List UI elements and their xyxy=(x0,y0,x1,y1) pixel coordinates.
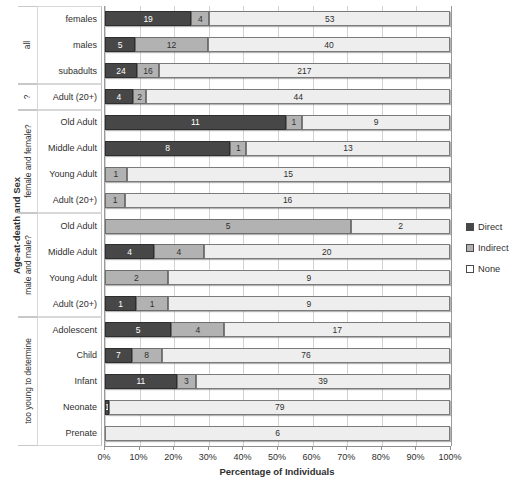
x-axis-tick-label: 50% xyxy=(260,452,294,462)
bar-row: 7876 xyxy=(105,348,450,363)
bar-segment-none: 76 xyxy=(162,348,450,363)
bar-value-label: 4 xyxy=(198,14,203,24)
bar-row: 11339 xyxy=(105,374,450,389)
bar-value-label: 8 xyxy=(144,350,149,360)
group-label-female-and-female-: female and female? xyxy=(18,110,38,214)
x-axis-tick xyxy=(346,446,347,450)
bar-value-label: 1 xyxy=(150,299,155,309)
bar-segment-none: 39 xyxy=(196,374,450,389)
bar-row: 8113 xyxy=(105,141,450,156)
x-axis-tick-label: 70% xyxy=(329,452,363,462)
category-label: Prenate xyxy=(65,429,97,438)
bar-segment-direct: 5 xyxy=(105,37,135,52)
legend: DirectIndirectNone xyxy=(466,222,509,285)
category-block: Adult (20+) xyxy=(38,84,102,110)
bar-row: 179 xyxy=(105,400,450,415)
bar-segment-none: 40 xyxy=(208,37,450,52)
bar-value-label: 5 xyxy=(136,325,141,335)
bar-row: 19453 xyxy=(105,11,450,26)
group-label-text: all xyxy=(22,41,32,49)
bar-segment-direct: 8 xyxy=(105,141,230,156)
category-label: Adolescent xyxy=(52,326,97,335)
category-label: Middle Adult xyxy=(48,248,97,257)
bar-value-label: 9 xyxy=(306,273,311,283)
bar-value-label: 79 xyxy=(275,402,284,412)
legend-item-direct[interactable]: Direct xyxy=(466,222,509,232)
bar-value-label: 9 xyxy=(306,299,311,309)
legend-item-none[interactable]: None xyxy=(466,264,509,274)
category-label: Young Adult xyxy=(49,170,97,179)
bar-value-label: 44 xyxy=(293,92,302,102)
bar-value-label: 8 xyxy=(165,143,170,153)
legend-label: Indirect xyxy=(478,243,509,253)
x-axis-tick-label: 40% xyxy=(225,452,259,462)
bar-value-label: 217 xyxy=(297,66,311,76)
group-label-text: female and female? xyxy=(23,124,33,198)
bar-segment-indirect: 5 xyxy=(105,219,351,234)
x-axis-tick xyxy=(450,446,451,450)
category-label: Adult (20+) xyxy=(53,196,97,205)
group-label-text: too young to determine xyxy=(23,338,33,424)
category-block: Old AdultMiddle AdultYoung AdultAdult (2… xyxy=(38,213,102,317)
bar-segment-indirect: 3 xyxy=(177,374,197,389)
bar-row: 119 xyxy=(105,296,450,311)
x-axis-tick-label: 30% xyxy=(191,452,225,462)
bar-segment-direct: 4 xyxy=(105,244,154,259)
bar-segment-none: 2 xyxy=(351,219,450,234)
bar-value-label: 1 xyxy=(292,117,297,127)
category-block: femalesmalessubadults xyxy=(38,6,102,84)
bar-segment-direct: 19 xyxy=(105,11,191,26)
legend-swatch-none-icon xyxy=(466,265,474,273)
group-label--: ? xyxy=(18,84,38,110)
bar-value-label: 4 xyxy=(127,247,132,257)
group-label-male-and-male-: male and male? xyxy=(18,213,38,317)
bar-segment-direct: 11 xyxy=(105,374,177,389)
bar-value-label: 4 xyxy=(177,247,182,257)
legend-label: Direct xyxy=(478,222,502,232)
x-axis-tick-label: 20% xyxy=(156,452,190,462)
bar-row: 51240 xyxy=(105,37,450,52)
legend-item-indirect[interactable]: Indirect xyxy=(466,243,509,253)
bar-segment-none: 20 xyxy=(204,244,450,259)
category-label: Adult (20+) xyxy=(53,300,97,309)
bar-segment-direct: 4 xyxy=(105,89,133,104)
bar-value-label: 9 xyxy=(374,117,379,127)
x-axis-tick-label: 80% xyxy=(364,452,398,462)
group-label-text: ? xyxy=(22,94,32,99)
bar-row: 4420 xyxy=(105,244,450,259)
x-axis-tick-label: 10% xyxy=(122,452,156,462)
category-label: Infant xyxy=(74,377,97,386)
bar-segment-indirect: 4 xyxy=(191,11,209,26)
bar-value-label: 7 xyxy=(116,350,121,360)
bar-row: 29 xyxy=(105,270,450,285)
category-label: Old Adult xyxy=(60,118,97,127)
gridline xyxy=(451,6,452,446)
bar-value-label: 11 xyxy=(136,376,145,386)
stacked-bar-chart: Age-at-death and Sex all?female and fema… xyxy=(0,0,531,484)
bar-segment-direct: 7 xyxy=(105,348,132,363)
bar-segment-none: 9 xyxy=(302,115,450,130)
bar-row: 52 xyxy=(105,219,450,234)
bar-value-label: 12 xyxy=(167,40,176,50)
x-axis-tick xyxy=(242,446,243,450)
category-label: Middle Adult xyxy=(48,144,97,153)
bar-row: 115 xyxy=(105,167,450,182)
bar-segment-indirect: 2 xyxy=(133,89,147,104)
bar-segment-indirect: 16 xyxy=(137,63,158,78)
bar-value-label: 15 xyxy=(284,169,293,179)
bar-value-label: 17 xyxy=(332,325,341,335)
bar-row: 6 xyxy=(105,426,450,441)
category-label: subadults xyxy=(58,67,97,76)
x-axis-tick xyxy=(208,446,209,450)
x-axis-tick-label: 60% xyxy=(295,452,329,462)
bar-value-label: 16 xyxy=(143,66,152,76)
bar-segment-indirect: 1 xyxy=(286,115,302,130)
bar-value-label: 20 xyxy=(322,247,331,257)
bar-segment-direct: 1 xyxy=(105,296,136,311)
bar-segment-none: 9 xyxy=(168,296,450,311)
bar-segment-indirect: 4 xyxy=(171,322,224,337)
bar-segment-none: 17 xyxy=(224,322,450,337)
plot-area: 1945351240241621742441119811311511652442… xyxy=(104,6,450,446)
x-axis-tick xyxy=(381,446,382,450)
x-axis-tick xyxy=(173,446,174,450)
